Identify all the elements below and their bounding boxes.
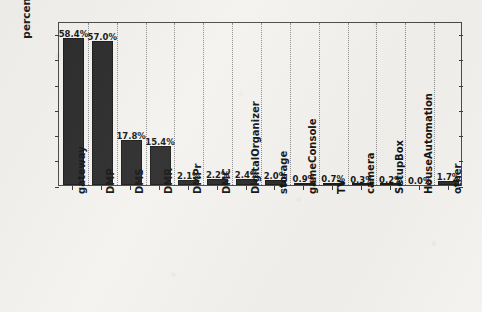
y-tick-mark (55, 161, 59, 162)
y-tick-mark-right (459, 86, 463, 87)
y-axis-title: percentage of homes (%) (18, 0, 34, 44)
x-tick-mark (390, 186, 391, 190)
x-tick-mark (419, 186, 420, 190)
gridline-vertical (434, 23, 435, 185)
x-tick-mark (188, 186, 189, 190)
x-tick-mark (332, 186, 333, 190)
y-tick-mark-right (459, 136, 463, 137)
gridline-vertical (290, 23, 291, 185)
x-tick-label: gameConsole (307, 119, 318, 194)
y-tick-mark-right (459, 60, 463, 61)
gridline-vertical (203, 23, 204, 185)
y-tick-mark (55, 60, 59, 61)
x-tick-label: camera (365, 152, 376, 194)
x-tick-mark (274, 186, 275, 190)
x-tick-mark (361, 186, 362, 190)
y-tick-mark (55, 136, 59, 137)
y-tick-mark-right (459, 161, 463, 162)
x-tick-label: DMPr (192, 163, 203, 194)
gridline-vertical (261, 23, 262, 185)
x-tick-label: DigitalOrganizer (250, 101, 261, 194)
x-tick-label: storage (278, 151, 289, 194)
y-tick-mark-right (459, 111, 463, 112)
x-tick-label: TV (336, 179, 347, 194)
y-tick-mark (55, 86, 59, 87)
x-tick-label: DMR (163, 168, 174, 194)
gridline-vertical (376, 23, 377, 185)
x-tick-label: DMC (221, 168, 232, 194)
gridline-vertical (117, 23, 118, 185)
x-tick-mark (130, 186, 131, 190)
x-tick-mark (101, 186, 102, 190)
bar-chart-figure: percentage of homes (%) 010203040506058.… (0, 0, 482, 312)
x-tick-label: DMS (134, 169, 145, 194)
x-tick-label: other (452, 164, 463, 194)
gridline-vertical (232, 23, 233, 185)
x-tick-label: gateway (76, 146, 87, 194)
x-axis-tick-layer: gatewayDMPDMSDMRDMPrDMCDigitalOrganizers… (58, 186, 462, 306)
x-tick-label: SetupBox (394, 140, 405, 194)
gridline-vertical (146, 23, 147, 185)
y-tick-mark-right (459, 35, 463, 36)
bar-value-label: 57.0% (85, 32, 119, 42)
x-tick-label: DMP (105, 168, 116, 194)
gridline-vertical (405, 23, 406, 185)
bar-value-label: 15.4% (143, 137, 177, 147)
gridline-vertical (319, 23, 320, 185)
gridline-vertical (88, 23, 89, 185)
x-tick-mark (448, 186, 449, 190)
x-tick-mark (72, 186, 73, 190)
x-tick-mark (217, 186, 218, 190)
gridline-vertical (174, 23, 175, 185)
gridline-vertical (348, 23, 349, 185)
x-tick-label: HouseAutomation (423, 93, 434, 194)
x-tick-mark (159, 186, 160, 190)
y-tick-mark (55, 111, 59, 112)
x-tick-mark (303, 186, 304, 190)
bar (92, 41, 113, 185)
x-tick-mark (246, 186, 247, 190)
